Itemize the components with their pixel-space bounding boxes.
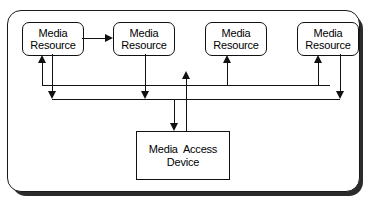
connector-upperbus-to-res4-line xyxy=(318,62,319,86)
media-resource-box-4[interactable]: Media Resource xyxy=(297,22,359,56)
media-resource-3-line2: Resource xyxy=(213,39,258,52)
connector-res1-to-res2-line xyxy=(82,38,106,39)
connector-upperbus-to-res3-line xyxy=(227,62,228,86)
media-access-device-box[interactable]: Media Access Device xyxy=(136,131,230,180)
arrowhead-upperbus-to-res1 xyxy=(38,55,46,63)
arrowhead-res4-to-lowerbus xyxy=(336,91,344,99)
arrowhead-res1-to-lowerbus xyxy=(48,91,56,99)
connector-device-to-upperbus-line xyxy=(186,78,187,131)
arrowhead-res1-to-res2 xyxy=(105,34,113,42)
arrowhead-device-to-upperbus xyxy=(182,71,190,79)
media-access-device-line1: Media Access xyxy=(149,143,217,156)
media-resource-2-line2: Resource xyxy=(121,39,166,52)
diagram-canvas: Media Resource Media Resource Media Reso… xyxy=(0,0,380,203)
media-resource-2-line1: Media xyxy=(130,27,159,40)
media-resource-1-line1: Media xyxy=(39,27,68,40)
connector-lowerbus-to-device-line xyxy=(174,99,175,124)
media-resource-4-line2: Resource xyxy=(305,39,350,52)
media-resource-4-line1: Media xyxy=(314,27,343,40)
media-resource-3-line1: Media xyxy=(222,27,251,40)
media-resource-1-line2: Resource xyxy=(30,39,75,52)
connector-res2-to-lowerbus-line xyxy=(145,54,146,92)
arrowhead-upperbus-to-res3 xyxy=(223,55,231,63)
connector-upperbus-to-res1-line xyxy=(42,62,43,86)
connector-res1-to-lowerbus-line xyxy=(52,54,53,92)
arrowhead-res2-to-lowerbus xyxy=(141,91,149,99)
lower-bus-line xyxy=(52,99,340,100)
connector-res4-to-lowerbus-line xyxy=(340,54,341,92)
arrowhead-lowerbus-to-device xyxy=(170,123,178,131)
media-resource-box-1[interactable]: Media Resource xyxy=(22,22,84,56)
media-resource-box-2[interactable]: Media Resource xyxy=(113,22,175,56)
arrowhead-upperbus-to-res4 xyxy=(314,55,322,63)
media-access-device-line2: Device xyxy=(167,156,199,169)
media-resource-box-3[interactable]: Media Resource xyxy=(205,22,267,56)
